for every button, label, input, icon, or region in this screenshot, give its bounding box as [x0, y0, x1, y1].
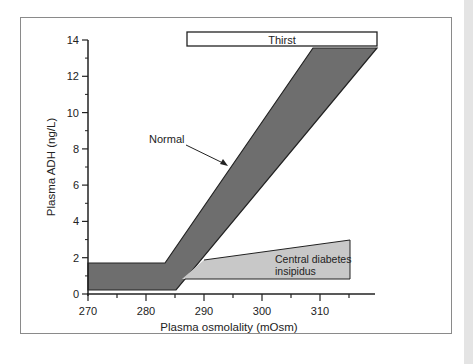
svg-text:12: 12	[67, 70, 79, 82]
svg-text:8: 8	[73, 143, 79, 155]
x-tick-labels: 270 280 290 300 310	[79, 305, 329, 317]
svg-text:2: 2	[73, 252, 79, 264]
arrowhead-icon	[220, 159, 228, 166]
svg-text:14: 14	[67, 34, 79, 46]
svg-text:300: 300	[253, 305, 271, 317]
svg-text:270: 270	[79, 305, 97, 317]
svg-text:10: 10	[67, 107, 79, 119]
svg-text:4: 4	[73, 215, 79, 227]
svg-text:280: 280	[137, 305, 155, 317]
y-axis-title: Plasma ADH (ng/L)	[45, 118, 57, 217]
normal-arrow	[186, 145, 225, 164]
x-axis-title: Plasma osmolality (mOsm)	[160, 321, 298, 333]
y-tick-labels: 0 2 4 6 8 10 12 14	[67, 34, 79, 300]
chart: Thirst Normal Central diabetes insipidus…	[0, 0, 473, 364]
svg-text:6: 6	[73, 179, 79, 191]
normal-label: Normal	[149, 133, 184, 145]
svg-text:290: 290	[195, 305, 213, 317]
cdi-label-line2: insipidus	[275, 265, 316, 277]
x-ticks	[88, 294, 349, 301]
svg-text:310: 310	[311, 305, 329, 317]
cdi-label-line1: Central diabetes	[275, 253, 351, 265]
svg-text:0: 0	[73, 288, 79, 300]
thirst-label: Thirst	[268, 34, 296, 46]
